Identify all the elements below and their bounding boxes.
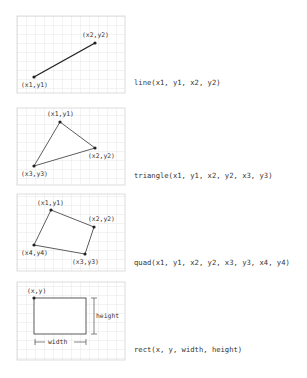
shapes-diagram: (x1,y1) (x2,y2) (x1,y1) (x2,y2) (x3,y3) … — [0, 0, 307, 378]
point-label-p1: (x1,y1) — [37, 199, 64, 207]
point-label-p3: (x3,y3) — [72, 258, 99, 266]
point-label-p2: (x2,y2) — [82, 31, 109, 39]
triangle-signature: triangle(x1, y1, x2, y2, x3, y3) — [134, 171, 272, 180]
height-label: height — [96, 312, 119, 320]
point-marker — [49, 208, 52, 211]
origin-label: (x,y) — [27, 287, 46, 295]
width-label: width — [48, 338, 67, 346]
quad-signature: quad(x1, y1, x2, y2, x3, y3, x4, y4) — [134, 258, 290, 267]
point-label-p1: (x1,y1) — [47, 110, 74, 118]
rect-signature: rect(x, y, width, height) — [134, 345, 242, 354]
point-label-p3: (x3,y3) — [21, 170, 48, 178]
triangle-panel: (x1,y1) (x2,y2) (x3,y3) — [17, 108, 125, 185]
point-label-p2: (x2,y2) — [88, 152, 115, 160]
point-marker — [32, 164, 35, 167]
line-signature: line(x1, y1, x2, y2) — [134, 78, 221, 87]
point-marker — [93, 41, 96, 44]
point-label-p1: (x1,y1) — [21, 81, 48, 89]
line-panel: (x1,y1) (x2,y2) — [17, 16, 125, 93]
origin-marker — [32, 296, 35, 299]
rect-shape — [34, 298, 86, 334]
point-label-p4: (x4,y4) — [21, 249, 48, 257]
point-marker — [32, 75, 35, 78]
point-marker — [92, 225, 95, 228]
point-marker — [32, 243, 35, 246]
point-label-p2: (x2,y2) — [88, 215, 115, 223]
point-marker — [83, 252, 86, 255]
point-marker — [93, 146, 96, 149]
point-marker — [58, 120, 61, 123]
rect-panel: (x,y) width height — [17, 282, 125, 360]
quad-panel: (x1,y1) (x2,y2) (x3,y3) (x4,y4) — [17, 194, 125, 271]
